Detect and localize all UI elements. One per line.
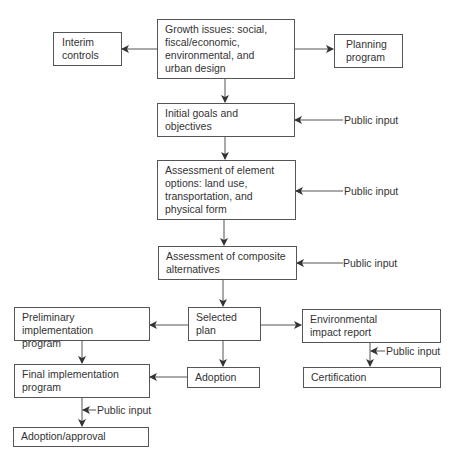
node-initial-goals: Initial goals and objectives xyxy=(157,103,295,137)
node-growth-issues: Growth issues: social, fiscal/economic, … xyxy=(157,19,295,79)
flowchart-canvas: Growth issues: social, fiscal/economic, … xyxy=(0,0,463,469)
node-selected-plan-label: Selected plan xyxy=(196,311,253,337)
node-preliminary-implementation-label: Preliminary implementation program xyxy=(22,311,142,350)
public-input-certification: Public input xyxy=(386,345,440,357)
node-final-implementation: Final implementation program xyxy=(14,364,150,398)
node-element-options-label: Assessment of element options: land use,… xyxy=(165,164,288,216)
node-final-implementation-label: Final implementation program xyxy=(22,368,142,394)
node-adoption-label: Adoption xyxy=(195,371,252,384)
node-selected-plan: Selected plan xyxy=(188,307,261,341)
node-composite-alternatives-label: Assessment of composite alternatives xyxy=(166,250,289,276)
public-input-initial: Public input xyxy=(344,114,398,126)
node-interim-controls: Interim controls xyxy=(53,32,122,66)
node-composite-alternatives: Assessment of composite alternatives xyxy=(158,246,297,280)
node-certification-label: Certification xyxy=(311,371,433,384)
node-environmental-impact-report-label: Environmental impact report xyxy=(310,313,433,339)
public-input-element: Public input xyxy=(344,185,398,197)
node-interim-controls-label: Interim controls xyxy=(62,36,114,62)
public-input-approval: Public input xyxy=(97,404,151,416)
node-certification: Certification xyxy=(303,367,441,388)
public-input-composite: Public input xyxy=(343,257,397,269)
node-environmental-impact-report: Environmental impact report xyxy=(302,309,441,343)
node-preliminary-implementation: Preliminary implementation program xyxy=(14,307,150,341)
node-adoption-approval-label: Adoption/approval xyxy=(21,430,141,443)
node-growth-issues-label: Growth issues: social, fiscal/economic, … xyxy=(165,23,287,75)
node-planning-program: Planning program xyxy=(334,34,403,68)
node-initial-goals-label: Initial goals and objectives xyxy=(165,107,287,133)
node-adoption: Adoption xyxy=(187,367,260,388)
node-planning-program-label: Planning program xyxy=(346,38,395,64)
node-adoption-approval: Adoption/approval xyxy=(13,427,149,447)
node-element-options: Assessment of element options: land use,… xyxy=(157,160,296,220)
